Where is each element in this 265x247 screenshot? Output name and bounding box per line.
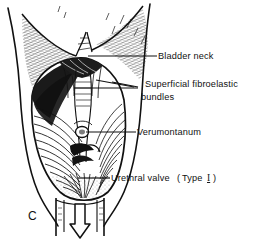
label-superficial-fibroelastic-line2: bundles — [141, 92, 174, 102]
bladder-neck-structure — [76, 32, 92, 56]
label-bladder-neck: Bladder neck — [158, 51, 214, 61]
label-urethral-valve-paren-close: ) — [213, 173, 216, 183]
figure-panel-c: Bladder neck Superficial fibroelastic bu… — [0, 0, 265, 247]
urine-flow-arrow-icon — [70, 204, 90, 238]
distal-urethra — [56, 198, 104, 238]
panel-letter: C — [28, 209, 37, 223]
label-urethral-valve-group: Urethral valve ( Type I ) — [111, 172, 216, 183]
label-urethral-valve-type: Type — [182, 173, 203, 183]
label-superficial-fibroelastic-line1: Superficial fibroelastic — [145, 79, 238, 89]
label-verumontanum: Verumontanum — [137, 127, 201, 137]
label-urethral-valve-roman-numeral: I — [207, 172, 210, 183]
urethral-valve-illustration: Bladder neck Superficial fibroelastic bu… — [0, 0, 265, 247]
label-urethral-valve: Urethral valve — [111, 173, 170, 183]
label-urethral-valve-paren-open: ( — [177, 173, 180, 183]
